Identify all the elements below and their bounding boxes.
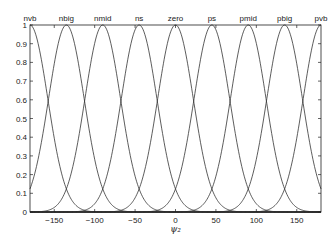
curve-pvb — [30, 25, 321, 212]
y-tick-label: 0.2 — [16, 171, 28, 180]
label-ns: ns — [135, 14, 143, 23]
label-ps: ps — [208, 14, 216, 23]
curve-ps — [30, 25, 321, 212]
y-tick-label: 0.5 — [16, 115, 28, 124]
membership-curves — [30, 25, 321, 212]
label-pmid: pmid — [240, 14, 257, 23]
label-zero: zero — [168, 14, 184, 23]
membership-function-chart: 00.10.20.30.40.50.60.70.80.91 −150−100−5… — [0, 0, 333, 242]
membership-labels: nvbnbignmidnszeropspmidpbigpvb — [24, 14, 328, 23]
plot-frame — [30, 25, 321, 212]
label-pvb: pvb — [315, 14, 328, 23]
y-tick-label: 0.4 — [16, 133, 28, 142]
curve-zero — [30, 25, 321, 212]
y-tick-label: 0.6 — [16, 96, 28, 105]
x-axis-ticks: −150−100−50050100150 — [45, 25, 304, 225]
curve-nvb — [30, 25, 321, 212]
x-tick-label: 150 — [290, 216, 304, 225]
y-tick-label: 0.1 — [16, 189, 28, 198]
curve-nmid — [30, 25, 321, 212]
x-tick-label: −50 — [128, 216, 142, 225]
y-tick-label: 0.7 — [16, 77, 28, 86]
y-tick-label: 0.8 — [16, 58, 28, 67]
x-tick-label: 50 — [211, 216, 220, 225]
x-tick-label: −100 — [86, 216, 105, 225]
x-tick-label: −150 — [45, 216, 64, 225]
curve-nbig — [30, 25, 321, 212]
curve-pbig — [30, 25, 321, 212]
y-tick-label: 0 — [23, 208, 28, 217]
label-pbig: pbig — [277, 14, 292, 23]
curve-ns — [30, 25, 321, 212]
label-nvb: nvb — [24, 14, 37, 23]
curve-pmid — [30, 25, 321, 212]
y-tick-label: 0.9 — [16, 40, 28, 49]
x-tick-label: 100 — [250, 216, 264, 225]
label-nmid: nmid — [94, 14, 111, 23]
x-axis-label: ψ₂ — [170, 224, 181, 234]
y-tick-label: 0.3 — [16, 152, 28, 161]
label-nbig: nbig — [59, 14, 74, 23]
